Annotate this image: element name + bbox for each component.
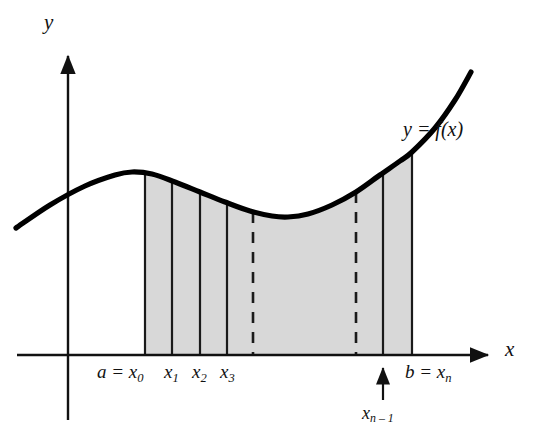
- curve-equation-label: y = f(x): [403, 119, 463, 139]
- tick-label-x3: x3: [220, 362, 235, 381]
- tick-label-b-xn: b = xn: [405, 362, 452, 381]
- tick-label-a-x0-sub: 0: [137, 371, 143, 385]
- tick-label-xn-minus-1: xn – 1: [362, 404, 394, 422]
- tick-label-x3-sub: 3: [228, 371, 234, 385]
- tick-label-a-x0: a = x0: [97, 362, 144, 381]
- x-axis-label: x: [505, 339, 514, 360]
- tick-label-xn-minus-1-main: x: [362, 403, 370, 423]
- tick-label-a-x0-main: a = x: [97, 361, 137, 382]
- tick-label-b-xn-main: b = x: [405, 361, 445, 382]
- riemann-sum-diagram: [0, 0, 534, 446]
- tick-label-xn-minus-1-sub: n – 1: [370, 411, 394, 425]
- tick-label-x1-sub: 1: [172, 371, 178, 385]
- tick-label-b-xn-sub: n: [445, 371, 451, 385]
- tick-label-x1: x1: [164, 362, 179, 381]
- y-axis-label: y: [44, 12, 53, 33]
- tick-label-x2-sub: 2: [200, 371, 206, 385]
- tick-label-x2: x2: [192, 362, 207, 381]
